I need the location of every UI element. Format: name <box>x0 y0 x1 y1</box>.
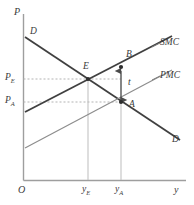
origin-label: O <box>18 185 25 195</box>
smc-curve <box>25 36 172 112</box>
point-b-marker <box>119 65 123 69</box>
smc-curve-label: SMC <box>160 38 179 48</box>
point-a-marker <box>119 100 123 104</box>
demand-curve-label-top: D <box>30 27 37 37</box>
quantity-e-tick-sub: E <box>86 189 90 196</box>
tax-gap-label: t <box>128 78 131 88</box>
pmc-curve <box>25 70 172 148</box>
price-a-tick-label: PA <box>5 96 15 107</box>
quantity-a-tick-label: yA <box>115 185 123 196</box>
price-e-tick-sub: E <box>11 77 15 84</box>
quantity-a-tick-sub: A <box>119 189 123 196</box>
demand-curve <box>25 37 180 140</box>
quantity-e-tick-label: yE <box>82 185 90 196</box>
price-e-tick-label: PE <box>5 73 15 84</box>
point-b-label: B <box>126 50 132 60</box>
pmc-leader <box>152 76 160 80</box>
price-a-tick-sub: A <box>11 100 15 107</box>
y-axis-label: P <box>14 7 20 17</box>
point-a-label: A <box>129 100 135 110</box>
point-e-label: E <box>83 62 89 72</box>
economics-diagram: P y O D D SMC PMC E B A t PE PA yE yA <box>0 0 194 205</box>
x-axis-label: y <box>174 185 178 195</box>
point-e-marker <box>86 77 90 81</box>
pmc-curve-label: PMC <box>160 71 180 81</box>
demand-curve-label-bottom: D <box>172 135 179 145</box>
